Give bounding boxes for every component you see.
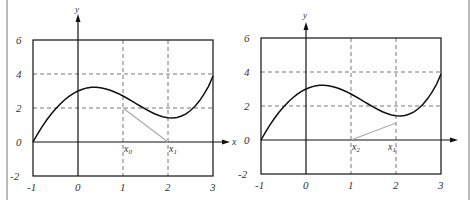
right-xtick-3: 3 [437, 179, 444, 191]
right-y-arrow-icon [304, 22, 309, 30]
right-x2-label: x2 [351, 141, 360, 154]
left-y-arrow-icon [76, 14, 81, 22]
right-ytick-4: 4 [244, 66, 250, 78]
left-x1-label: x1 [168, 143, 177, 156]
right-ytick-2: 2 [244, 100, 250, 112]
left-ytick-6: 6 [16, 34, 22, 46]
left-tangent-line [123, 108, 168, 142]
right-xtick-0: 0 [303, 179, 309, 191]
left-x-arrow-icon [222, 140, 230, 145]
right-x1-label: x1 [387, 141, 396, 154]
right-xtick-neg1: -1 [255, 179, 264, 191]
right-ytick-neg2: -2 [238, 168, 248, 180]
left-xtick-1: 1 [120, 181, 126, 193]
left-xtick-neg1: -1 [27, 181, 36, 193]
right-xtick-2: 2 [393, 179, 399, 191]
left-x0-label: x0 [123, 143, 132, 156]
left-ytick-2: 2 [16, 102, 22, 114]
left-x-label: x [231, 136, 237, 147]
right-y-label: y [302, 10, 307, 20]
left-ytick-4: 4 [16, 68, 22, 80]
left-xtick-0: 0 [75, 181, 81, 193]
right-ytick-6: 6 [244, 32, 250, 44]
left-plot: 6 4 2 0 -2 -1 0 1 2 3 y x x0 x1 [10, 4, 237, 193]
right-ytick-0: 0 [244, 134, 250, 146]
figure: 6 4 2 0 -2 -1 0 1 2 3 y x x0 x1 6 4 2 [0, 0, 470, 203]
left-xtick-2: 2 [165, 181, 171, 193]
left-y-label: y [74, 4, 79, 14]
left-ytick-neg2: -2 [10, 170, 20, 182]
left-xtick-3: 3 [209, 181, 216, 193]
right-x-arrow-icon [450, 138, 458, 143]
left-ytick-0: 0 [16, 136, 22, 148]
right-plot: 6 4 2 0 -2 -1 0 1 2 3 y x2 x1 [238, 10, 458, 191]
right-grid [261, 38, 441, 174]
right-tangent-line [351, 123, 396, 140]
right-xtick-1: 1 [348, 179, 354, 191]
